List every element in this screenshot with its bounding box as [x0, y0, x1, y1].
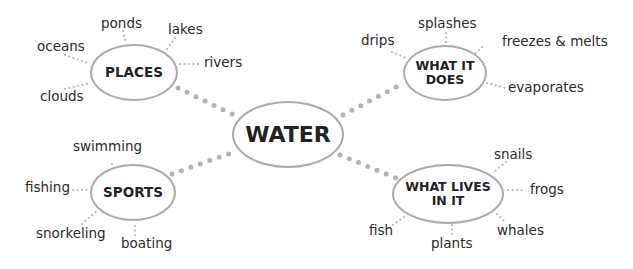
- leaf-fish: fish: [369, 224, 393, 238]
- branch-node-sports[interactable]: SPORTS: [90, 164, 176, 221]
- leaf-whales: whales: [497, 224, 544, 238]
- branch-node-what-it-does[interactable]: WHAT IT DOES: [403, 45, 487, 101]
- branch-label-what-lives-in-it: WHAT LIVES IN IT: [403, 180, 493, 209]
- leaf-snorkeling: snorkeling: [36, 227, 106, 241]
- branch-node-what-lives-in-it[interactable]: WHAT LIVES IN IT: [392, 164, 504, 224]
- branch-label-sports: SPORTS: [103, 185, 163, 201]
- leaf-freezes-melts: freezes & melts: [502, 35, 608, 49]
- leaf-drips: drips: [361, 34, 394, 48]
- leaf-clouds: clouds: [40, 90, 84, 104]
- branch-label-what-it-does: WHAT IT DOES: [410, 59, 480, 88]
- leaf-frogs: frogs: [530, 183, 564, 197]
- leaf-swimming: swimming: [73, 140, 142, 154]
- center-node-water[interactable]: WATER: [232, 101, 344, 168]
- leaf-splashes: splashes: [418, 17, 477, 31]
- leaf-ponds: ponds: [101, 17, 142, 31]
- branch-node-places[interactable]: PLACES: [90, 44, 178, 101]
- water-mind-map: WATER PLACES ponds lakes oceans rivers c…: [0, 0, 633, 269]
- branch-label-places: PLACES: [105, 65, 163, 81]
- leaf-oceans: oceans: [37, 40, 85, 54]
- leaf-lakes: lakes: [168, 23, 203, 37]
- leaf-rivers: rivers: [204, 56, 242, 70]
- leaf-plants: plants: [431, 237, 472, 251]
- center-label: WATER: [245, 122, 331, 147]
- leaf-boating: boating: [121, 237, 172, 251]
- leaf-fishing: fishing: [25, 181, 70, 195]
- leaf-snails: snails: [494, 148, 532, 162]
- leaf-evaporates: evaporates: [508, 81, 584, 95]
